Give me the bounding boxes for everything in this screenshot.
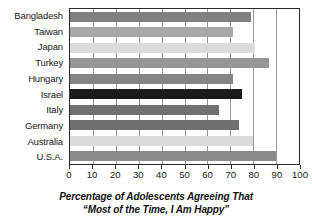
y-axis-label: Taiwan (34, 27, 66, 37)
y-axis-label: Israel (41, 90, 66, 100)
bar-chart-figure: BangladeshTaiwanJapanTurkeyHungaryIsrael… (0, 0, 312, 222)
bars-container (70, 9, 299, 164)
bar (70, 74, 233, 84)
bar (70, 105, 219, 115)
x-axis-tick-label: 20 (110, 170, 121, 180)
bar (70, 12, 251, 22)
bar-row (70, 136, 299, 146)
x-axis-tick-label: 10 (87, 170, 98, 180)
y-axis-category-labels: BangladeshTaiwanJapanTurkeyHungaryIsrael… (0, 8, 66, 165)
bar-row (70, 12, 299, 22)
bar (70, 120, 239, 130)
plot-area (69, 8, 300, 165)
bar-row (70, 58, 299, 68)
bar-row (70, 74, 299, 84)
bar-row (70, 27, 299, 37)
bar (70, 58, 269, 68)
x-axis-tick-label: 100 (292, 170, 308, 180)
bar (70, 151, 276, 161)
axis-title-line-1: Percentage of Adolescents Agreeing That (0, 190, 312, 203)
y-axis-label: Bangladesh (14, 11, 66, 21)
y-axis-label: Italy (46, 105, 66, 115)
x-axis-tick-label: 40 (156, 170, 167, 180)
axis-title: Percentage of Adolescents Agreeing That … (0, 190, 312, 216)
x-axis: 0102030405060708090100 (69, 165, 300, 187)
bar (70, 27, 233, 37)
y-axis-label: Germany (25, 121, 66, 131)
x-axis-tick-label: 90 (272, 170, 283, 180)
y-axis-label: U.S.A. (36, 152, 66, 162)
x-axis-tick-label: 50 (179, 170, 190, 180)
bar-row (70, 43, 299, 53)
bar-row (70, 151, 299, 161)
y-axis-label: Turkey (35, 58, 66, 68)
x-axis-tick-label: 80 (249, 170, 260, 180)
x-axis-tick-label: 60 (202, 170, 213, 180)
y-axis-label: Australia (27, 137, 66, 147)
x-axis-tick-label: 0 (66, 170, 71, 180)
x-axis-tick-label: 30 (133, 170, 144, 180)
bar-row (70, 120, 299, 130)
axis-title-line-2: “Most of the Time, I Am Happy” (0, 203, 312, 216)
y-axis-label: Japan (38, 42, 66, 52)
bar (70, 43, 255, 53)
bar (70, 136, 253, 146)
bar-row (70, 105, 299, 115)
y-axis-label: Hungary (28, 74, 66, 84)
x-axis-tick-label: 70 (225, 170, 236, 180)
bar-row (70, 89, 299, 99)
bar (70, 89, 242, 99)
